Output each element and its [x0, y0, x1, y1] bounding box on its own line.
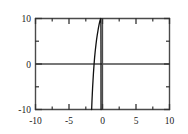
y-tick-label-0: 0: [26, 60, 31, 70]
x-tick-label-neg5: -5: [65, 116, 73, 126]
x-tick-label-neg10: -10: [29, 116, 42, 126]
y-tick-label-neg10: -10: [18, 105, 31, 115]
chart-figure: 10 0 -10 -10 -5 0 5 10: [0, 0, 188, 134]
x-tick-label-10: 10: [165, 116, 175, 126]
x-tick-label-5: 5: [134, 116, 139, 126]
x-tick-label-0: 0: [100, 116, 105, 126]
y-tick-label-10: 10: [22, 14, 32, 24]
plot-canvas: 10 0 -10 -10 -5 0 5 10: [0, 0, 188, 134]
